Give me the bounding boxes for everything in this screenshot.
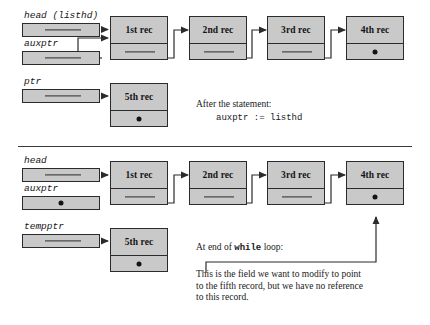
record-next-field[interactable] bbox=[190, 189, 246, 204]
record-label: 1st rec bbox=[111, 162, 167, 189]
pointer-line-icon bbox=[45, 29, 81, 30]
record-next-field[interactable] bbox=[268, 44, 324, 59]
variable-label: head (listhd) bbox=[24, 10, 98, 21]
variable-tempptr[interactable]: tempptr bbox=[22, 234, 100, 248]
nil-dot-icon bbox=[137, 261, 142, 266]
field-annotation: This is the field we want to modify to p… bbox=[196, 269, 364, 304]
variable-ptr[interactable]: ptr bbox=[22, 89, 100, 103]
pointer-line-icon bbox=[45, 240, 81, 241]
bottom-caption: At end of while loop: bbox=[196, 242, 283, 255]
variable-head-bottom[interactable]: head bbox=[22, 168, 100, 182]
variable-auxptr-bottom[interactable]: auxptr bbox=[22, 196, 100, 210]
record-label: 5th rec bbox=[111, 229, 167, 256]
record-node[interactable]: 2nd rec bbox=[189, 16, 247, 60]
pointer-line-icon bbox=[125, 196, 155, 197]
caption-prefix: At end of bbox=[196, 242, 234, 252]
record-label: 3rd rec bbox=[268, 17, 324, 44]
caption-keyword: while bbox=[234, 243, 261, 253]
pointer-line-icon bbox=[204, 51, 234, 52]
record-node[interactable]: 3rd rec bbox=[267, 161, 325, 205]
variable-label: tempptr bbox=[24, 221, 64, 232]
variable-value-box[interactable] bbox=[22, 23, 100, 37]
record-node[interactable]: 1st rec bbox=[110, 16, 168, 60]
record-label: 3rd rec bbox=[268, 162, 324, 189]
caption-suffix: loop: bbox=[261, 242, 283, 252]
pointer-line-icon bbox=[45, 57, 81, 58]
variable-value-box[interactable] bbox=[22, 51, 100, 65]
variable-head-listhd[interactable]: head (listhd) bbox=[22, 23, 100, 37]
nil-dot-icon bbox=[59, 201, 64, 206]
caption-line-1: After the statement: bbox=[196, 99, 271, 109]
pointer-line-icon bbox=[45, 95, 81, 96]
record-next-field-nil[interactable] bbox=[111, 111, 167, 126]
nil-dot-icon bbox=[373, 194, 378, 199]
record-next-field[interactable] bbox=[111, 189, 167, 204]
record-label: 4th rec bbox=[347, 162, 403, 189]
record-next-field[interactable] bbox=[111, 44, 167, 59]
variable-label: auxptr bbox=[24, 183, 58, 194]
top-caption: After the statement: auxptr := listhd bbox=[196, 99, 302, 124]
variable-value-box[interactable] bbox=[22, 234, 100, 248]
pointer-line-icon bbox=[282, 196, 312, 197]
record-label: 2nd rec bbox=[190, 17, 246, 44]
record-node[interactable]: 4th rec bbox=[346, 16, 404, 60]
record-next-field-nil[interactable] bbox=[347, 44, 403, 59]
pointer-line-icon bbox=[282, 51, 312, 52]
record-next-field[interactable] bbox=[268, 189, 324, 204]
record-next-field[interactable] bbox=[190, 44, 246, 59]
record-node[interactable]: 1st rec bbox=[110, 161, 168, 205]
nil-dot-icon bbox=[373, 49, 378, 54]
record-label: 4th rec bbox=[347, 17, 403, 44]
record-node-target[interactable]: 4th rec bbox=[346, 161, 404, 205]
record-label: 5th rec bbox=[111, 84, 167, 111]
caption-line-2: auxptr := listhd bbox=[196, 113, 302, 125]
variable-value-box-nil[interactable] bbox=[22, 196, 100, 210]
record-node-detached[interactable]: 5th rec bbox=[110, 83, 168, 127]
record-next-field-nil[interactable] bbox=[111, 256, 167, 271]
variable-label: ptr bbox=[24, 76, 41, 87]
variable-label: head bbox=[24, 155, 47, 166]
variable-value-box[interactable] bbox=[22, 168, 100, 182]
variable-auxptr-top[interactable]: auxptr bbox=[22, 51, 100, 65]
diagram-canvas: head (listhd) auxptr ptr 1st rec 2nd rec… bbox=[0, 0, 430, 325]
pointer-line-icon bbox=[125, 51, 155, 52]
nil-dot-icon bbox=[137, 116, 142, 121]
record-label: 2nd rec bbox=[190, 162, 246, 189]
panel-divider bbox=[18, 146, 412, 147]
record-label: 1st rec bbox=[111, 17, 167, 44]
record-node[interactable]: 3rd rec bbox=[267, 16, 325, 60]
record-node-detached[interactable]: 5th rec bbox=[110, 228, 168, 272]
record-next-field-nil[interactable] bbox=[347, 189, 403, 204]
variable-label: auxptr bbox=[24, 38, 58, 49]
variable-value-box[interactable] bbox=[22, 89, 100, 103]
pointer-line-icon bbox=[204, 196, 234, 197]
record-node[interactable]: 2nd rec bbox=[189, 161, 247, 205]
pointer-line-icon bbox=[45, 174, 81, 175]
